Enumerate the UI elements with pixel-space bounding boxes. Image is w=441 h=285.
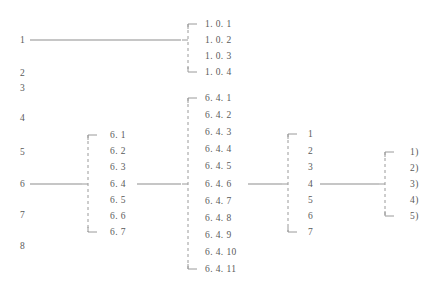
level-2-items-of-6-item-3[interactable]: 6. 3 xyxy=(110,162,126,173)
level-5-items-item-3[interactable]: 3) xyxy=(410,179,419,190)
level-1-items-item-7[interactable]: 7 xyxy=(20,210,25,221)
level-4-items-bracket-bottom xyxy=(288,227,297,232)
diagram-canvas: 123456786. 16. 26. 36. 46. 56. 66. 76. 4… xyxy=(0,0,441,285)
level-1-items-item-8[interactable]: 8 xyxy=(20,241,25,252)
level-3-items-of-6-4-item-6[interactable]: 6. 4. 6 xyxy=(205,179,232,190)
level-5-items-item-4[interactable]: 4) xyxy=(410,195,419,206)
level-2-items-of-6-item-7[interactable]: 6. 7 xyxy=(110,227,126,238)
level-2-items-of-6-item-5[interactable]: 6. 5 xyxy=(110,195,126,206)
level-1-items-item-3[interactable]: 3 xyxy=(20,83,25,94)
level-2-items-of-1-bracket-bottom xyxy=(188,67,197,72)
level-1-items-item-2[interactable]: 2 xyxy=(20,68,25,79)
level-2-items-of-6-item-6[interactable]: 6. 6 xyxy=(110,211,126,222)
level-1-items-item-6[interactable]: 6 xyxy=(20,179,25,190)
level-3-items-of-6-4-item-2[interactable]: 6. 4. 2 xyxy=(205,110,232,121)
level-4-items-item-5[interactable]: 5 xyxy=(308,195,313,206)
level-2-items-of-6-item-4[interactable]: 6. 4 xyxy=(110,179,126,190)
level-2-items-of-6-item-1[interactable]: 6. 1 xyxy=(110,130,126,141)
level-3-items-of-6-4-item-1[interactable]: 6. 4. 1 xyxy=(205,93,232,104)
level-4-items-item-4[interactable]: 4 xyxy=(308,179,313,190)
level-2-items-of-6-bracket-top xyxy=(88,135,97,140)
level-1-items-item-1[interactable]: 1 xyxy=(20,35,25,46)
level-5-items-bracket-bottom xyxy=(385,211,394,216)
level-5-items-item-1[interactable]: 1) xyxy=(410,147,419,158)
level-2-items-of-1-item-1[interactable]: 1. 0. 1 xyxy=(205,19,232,30)
level-2-items-of-1-item-3[interactable]: 1. 0. 3 xyxy=(205,51,232,62)
level-4-items-bracket-top xyxy=(288,134,297,139)
level-3-items-of-6-4-item-3[interactable]: 6. 4. 3 xyxy=(205,127,232,138)
level-4-items-item-6[interactable]: 6 xyxy=(308,211,313,222)
level-3-items-of-6-4-item-9[interactable]: 6. 4. 9 xyxy=(205,230,232,241)
level-3-items-of-6-4-bracket-bottom xyxy=(188,264,197,269)
level-3-items-of-6-4-item-8[interactable]: 6. 4. 8 xyxy=(205,213,232,224)
level-5-items-bracket-top xyxy=(385,152,394,157)
level-2-items-of-1-bracket-top xyxy=(188,24,197,29)
level-3-items-of-6-4-item-11[interactable]: 6. 4. 11 xyxy=(205,264,236,275)
level-4-items-item-1[interactable]: 1 xyxy=(308,129,313,140)
level-2-items-of-1-item-2[interactable]: 1. 0. 2 xyxy=(205,35,232,46)
level-4-items-item-3[interactable]: 3 xyxy=(308,162,313,173)
level-4-items-item-7[interactable]: 7 xyxy=(308,227,313,238)
level-5-items-item-2[interactable]: 2) xyxy=(410,163,419,174)
level-3-items-of-6-4-item-7[interactable]: 6. 4. 7 xyxy=(205,196,232,207)
level-3-items-of-6-4-item-5[interactable]: 6. 4. 5 xyxy=(205,161,232,172)
level-1-items-item-4[interactable]: 4 xyxy=(20,113,25,124)
level-1-items-item-5[interactable]: 5 xyxy=(20,147,25,158)
level-2-items-of-6-item-2[interactable]: 6. 2 xyxy=(110,146,126,157)
level-5-items-item-5[interactable]: 5) xyxy=(410,211,419,222)
level-3-items-of-6-4-item-10[interactable]: 6. 4. 10 xyxy=(205,247,237,258)
level-4-items-item-2[interactable]: 2 xyxy=(308,146,313,157)
level-2-items-of-1-item-4[interactable]: 1. 0. 4 xyxy=(205,67,232,78)
level-2-items-of-6-bracket-bottom xyxy=(88,227,97,232)
level-3-items-of-6-4-bracket-top xyxy=(188,98,197,103)
level-3-items-of-6-4-item-4[interactable]: 6. 4. 4 xyxy=(205,144,232,155)
